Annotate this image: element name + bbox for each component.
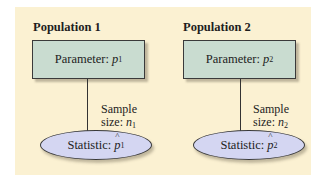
statistic-subscript: 1 — [121, 141, 125, 150]
sample-line-2: size: — [253, 115, 275, 129]
statistic-subscript: 2 — [274, 141, 278, 150]
statistic-symbol: p — [267, 138, 273, 153]
population-1-statistic-ellipse: Statistic: p1 — [40, 130, 152, 160]
sample-subscript: 2 — [284, 121, 288, 130]
statistic-symbol: p — [114, 138, 120, 153]
statistic-label: Statistic: — [220, 138, 264, 153]
parameter-subscript: 1 — [118, 55, 122, 64]
population-1-connector-line — [87, 79, 88, 132]
parameter-label: Parameter: — [55, 52, 109, 67]
parameter-label: Parameter: — [206, 52, 260, 67]
sample-line-2: size: — [101, 115, 123, 129]
sample-subscript: 1 — [132, 121, 136, 130]
population-1-sample-size: Sample size: n1 — [101, 103, 137, 132]
population-2-title: Population 2 — [183, 20, 251, 35]
statistic-label: Statistic: — [67, 138, 111, 153]
population-2-parameter-box: Parameter: p2 — [183, 40, 296, 79]
parameter-subscript: 2 — [269, 55, 273, 64]
population-1-title: Population 1 — [33, 20, 101, 35]
population-2-statistic-ellipse: Statistic: p2 — [193, 130, 305, 160]
population-2-sample-size: Sample size: n2 — [253, 103, 289, 132]
population-1-parameter-box: Parameter: p1 — [32, 40, 145, 79]
population-2-connector-line — [240, 79, 241, 132]
